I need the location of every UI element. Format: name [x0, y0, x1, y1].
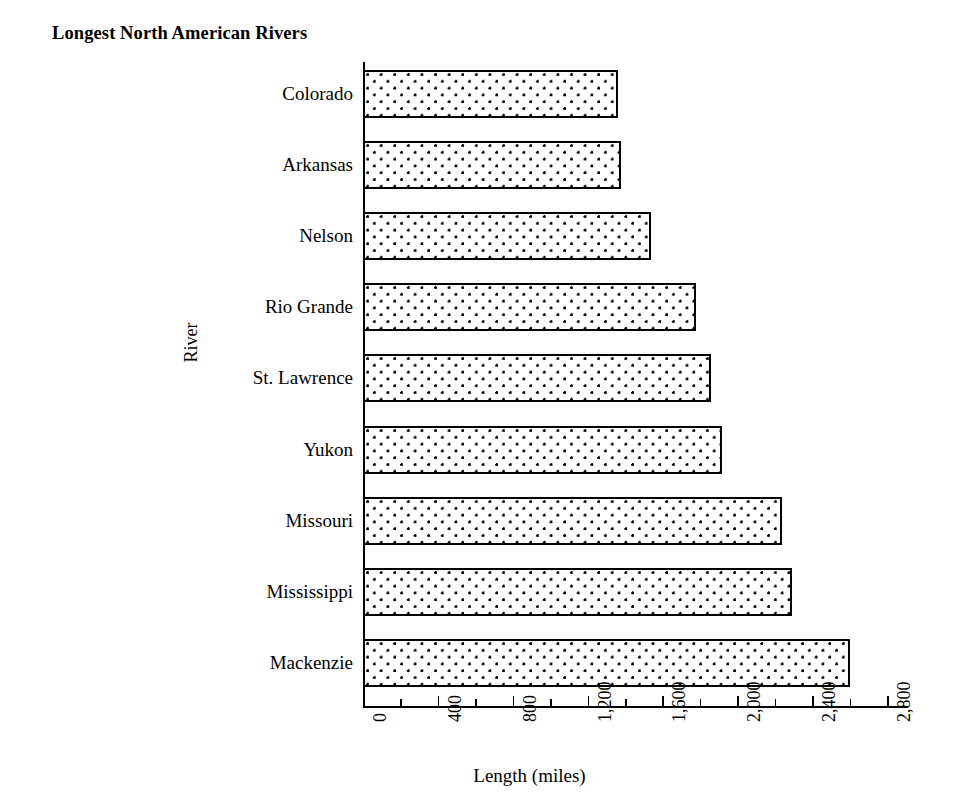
bar-mississippi — [363, 568, 792, 616]
category-label: Missouri — [285, 511, 353, 530]
category-label: Rio Grande — [265, 297, 353, 316]
bar-rect — [363, 212, 651, 260]
x-tick-minor — [625, 699, 627, 707]
category-label: Arkansas — [282, 155, 353, 174]
x-tick-minor — [475, 699, 477, 707]
bar-missouri — [363, 497, 782, 545]
bar-rect — [363, 497, 782, 545]
x-tick-label: 2,400 — [820, 682, 838, 723]
x-tick-label: 2,000 — [745, 682, 763, 723]
bar-rect — [363, 283, 696, 331]
x-tick-minor — [550, 699, 552, 707]
y-axis-title: River — [181, 323, 202, 363]
bar-rect — [363, 639, 850, 687]
category-label: Colorado — [282, 84, 353, 103]
category-label: St. Lawrence — [253, 368, 353, 387]
x-tick-major — [812, 696, 814, 707]
x-tick-major — [513, 696, 515, 707]
x-tick-major — [438, 696, 440, 707]
bar-rect — [363, 568, 792, 616]
bar-nelson — [363, 212, 651, 260]
x-tick-label: 1,200 — [596, 682, 614, 723]
x-tick-major — [662, 696, 664, 707]
bar-rect — [363, 141, 621, 189]
x-tick-major — [737, 696, 739, 707]
x-tick-label: 0 — [371, 713, 389, 722]
bar-colorado — [363, 70, 618, 118]
chart-title: Longest North American Rivers — [52, 23, 307, 44]
x-tick-minor — [850, 699, 852, 707]
category-axis-labels: ColoradoArkansasNelsonRio GrandeSt. Lawr… — [120, 62, 353, 708]
category-label: Mississippi — [266, 582, 353, 601]
x-tick-label: 2,800 — [895, 682, 913, 723]
x-tick-label: 400 — [446, 695, 464, 722]
category-label: Mackenzie — [270, 653, 353, 672]
x-tick-label: 1,600 — [670, 682, 688, 723]
category-label: Yukon — [303, 440, 353, 459]
bar-chart: Longest North American Rivers ColoradoAr… — [0, 0, 959, 798]
bar-st-lawrence — [363, 354, 711, 402]
bar-rio-grande — [363, 283, 696, 331]
x-tick-label: 800 — [521, 695, 539, 722]
bar-yukon — [363, 426, 722, 474]
plot-area — [363, 62, 908, 707]
x-tick-major — [363, 696, 365, 707]
category-label: Nelson — [299, 226, 353, 245]
x-tick-minor — [400, 699, 402, 707]
bar-rect — [363, 354, 711, 402]
x-tick-minor — [775, 699, 777, 707]
x-axis-title: Length (miles) — [0, 765, 959, 787]
x-tick-minor — [700, 699, 702, 707]
bar-rect — [363, 426, 722, 474]
bar-mackenzie — [363, 639, 850, 687]
bar-arkansas — [363, 141, 621, 189]
x-tick-major — [588, 696, 590, 707]
bar-rect — [363, 70, 618, 118]
x-tick-major — [887, 696, 889, 707]
